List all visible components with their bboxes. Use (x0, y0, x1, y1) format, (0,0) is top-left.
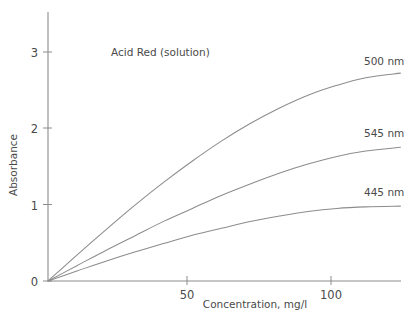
plot-title: Acid Red (solution) (111, 46, 210, 58)
series-label-500nm: 500 nm (364, 55, 404, 67)
absorbance-vs-concentration-chart: 0 1 2 3 50 100 Concentration, mg/l Absor… (0, 0, 418, 318)
x-axis-title: Concentration, mg/l (203, 298, 307, 310)
series-label-445nm: 445 nm (364, 186, 404, 198)
chart-page: 0 1 2 3 50 100 Concentration, mg/l Absor… (0, 0, 418, 318)
x-tick-label-100: 100 (320, 288, 342, 302)
y-tick-label-1: 1 (31, 199, 38, 213)
x-tick-label-50: 50 (180, 288, 195, 302)
y-axis-title: Absorbance (7, 134, 19, 196)
y-tick-label-0: 0 (31, 275, 38, 289)
series-label-545nm: 545 nm (364, 127, 404, 139)
y-tick-label-2: 2 (31, 122, 38, 136)
y-tick-label-3: 3 (31, 46, 38, 60)
